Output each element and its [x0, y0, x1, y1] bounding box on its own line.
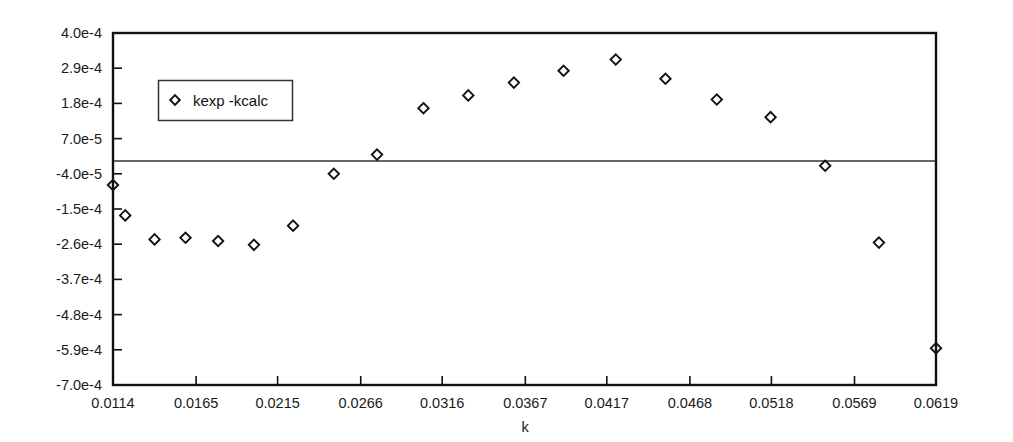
- data-point-marker: [712, 94, 722, 104]
- data-point-marker: [611, 54, 621, 64]
- x-tick-label: 0.0569: [832, 395, 876, 411]
- y-tick-label: -7.0e-4: [56, 377, 102, 393]
- y-tick-label: -3.7e-4: [56, 271, 102, 287]
- y-axis-tick-labels: 4.0e-42.9e-41.8e-47.0e-5-4.0e-5-1.5e-4-2…: [56, 25, 102, 393]
- legend-entry-label: kexp -kcalc: [193, 92, 269, 109]
- data-point-marker: [418, 103, 428, 113]
- data-point-marker: [149, 234, 159, 244]
- y-tick-label: 7.0e-5: [61, 131, 102, 147]
- data-point-marker: [288, 220, 298, 230]
- y-tick-label: -1.5e-4: [56, 201, 102, 217]
- x-axis-tick-marks: [196, 376, 854, 385]
- data-point-marker: [249, 240, 259, 250]
- x-tick-label: 0.0367: [503, 395, 547, 411]
- data-point-marker: [660, 74, 670, 84]
- y-tick-label: -2.6e-4: [56, 236, 102, 252]
- y-tick-label: 4.0e-4: [61, 25, 102, 41]
- data-point-marker: [213, 236, 223, 246]
- x-tick-label: 0.0619: [914, 395, 958, 411]
- y-tick-label: 2.9e-4: [61, 60, 102, 76]
- plot-canvas: 4.0e-42.9e-41.8e-47.0e-5-4.0e-5-1.5e-4-2…: [0, 0, 1013, 442]
- x-axis-title: k: [521, 419, 529, 435]
- data-point-marker: [558, 66, 568, 76]
- data-point-marker: [509, 77, 519, 87]
- data-point-marker: [120, 210, 130, 220]
- x-tick-label: 0.0114: [91, 395, 134, 411]
- x-tick-label: 0.0518: [749, 395, 793, 411]
- data-point-marker: [765, 112, 775, 122]
- y-tick-label: -4.8e-4: [56, 307, 102, 323]
- y-tick-label: -5.9e-4: [56, 342, 102, 358]
- scatter-chart-figure: 4.0e-42.9e-41.8e-47.0e-5-4.0e-5-1.5e-4-2…: [0, 0, 1013, 442]
- data-point-marker: [463, 90, 473, 100]
- x-tick-label: 0.0468: [668, 395, 712, 411]
- x-tick-label: 0.0215: [255, 395, 299, 411]
- data-point-marker: [820, 161, 830, 171]
- data-point-marker: [329, 169, 339, 179]
- data-point-marker: [372, 149, 382, 159]
- data-point-marker: [180, 233, 190, 243]
- y-tick-label: 1.8e-4: [61, 95, 102, 111]
- x-tick-label: 0.0316: [420, 395, 464, 411]
- x-tick-label: 0.0417: [585, 395, 629, 411]
- chart-legend: kexp -kcalc: [159, 81, 293, 121]
- x-axis-tick-labels: 0.01140.01650.02150.02660.03160.03670.04…: [91, 395, 958, 411]
- x-tick-label: 0.0266: [339, 395, 383, 411]
- data-point-marker: [874, 237, 884, 247]
- x-tick-label: 0.0165: [174, 395, 218, 411]
- y-axis-tick-marks: [113, 68, 122, 350]
- y-tick-label: -4.0e-5: [56, 166, 102, 182]
